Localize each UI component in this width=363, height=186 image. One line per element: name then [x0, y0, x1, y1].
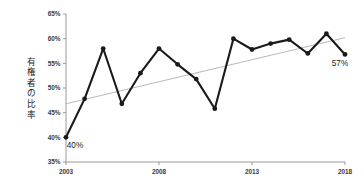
y-axis-title-char: 者	[27, 78, 36, 88]
y-axis-title-char: 比	[27, 98, 36, 109]
data-point	[324, 31, 329, 36]
y-axis-title-char: の	[27, 88, 36, 98]
data-point	[64, 135, 69, 140]
x-tick-label: 2018	[338, 168, 353, 175]
data-point	[268, 41, 273, 46]
data-point	[157, 46, 162, 51]
value-annotations: 40%57%	[67, 59, 348, 150]
data-point	[287, 37, 292, 42]
x-tick-label: 2008	[152, 168, 167, 175]
data-series-line	[66, 34, 345, 138]
data-point	[175, 62, 180, 67]
chart-container: 65%60%55%50%45%40%35% 2003200820132018 有…	[0, 0, 363, 186]
data-point	[212, 106, 217, 111]
y-tick-label: 40%	[48, 134, 61, 141]
data-point	[138, 71, 143, 76]
data-point	[101, 46, 106, 51]
value-annotation: 40%	[67, 141, 83, 150]
data-point	[82, 96, 87, 101]
y-tick-label: 60%	[48, 35, 61, 42]
data-point	[231, 36, 236, 41]
data-point	[250, 47, 255, 52]
y-tick-label: 35%	[48, 158, 61, 165]
data-point	[343, 52, 348, 57]
y-axis-title-char: 有	[27, 56, 36, 67]
y-tick-label: 45%	[48, 109, 61, 116]
y-axis-title-char: 権	[27, 66, 36, 77]
value-annotation: 57%	[332, 59, 348, 68]
y-tick-label: 55%	[48, 60, 61, 67]
voter-ratio-line-chart: 65%60%55%50%45%40%35% 2003200820132018 有…	[0, 0, 363, 186]
data-point	[305, 51, 310, 56]
y-axis-title-char: 率	[27, 109, 36, 120]
data-point	[119, 101, 124, 106]
y-tick-label: 65%	[48, 10, 61, 17]
x-tick-label: 2003	[59, 168, 74, 175]
y-tick-label: 50%	[48, 84, 61, 91]
x-axis-ticks: 2003200820132018	[59, 162, 353, 175]
y-axis-title: 有権者の比率	[27, 56, 36, 120]
y-axis-ticks: 65%60%55%50%45%40%35%	[48, 10, 66, 165]
data-point	[194, 77, 199, 82]
x-tick-label: 2013	[245, 168, 260, 175]
